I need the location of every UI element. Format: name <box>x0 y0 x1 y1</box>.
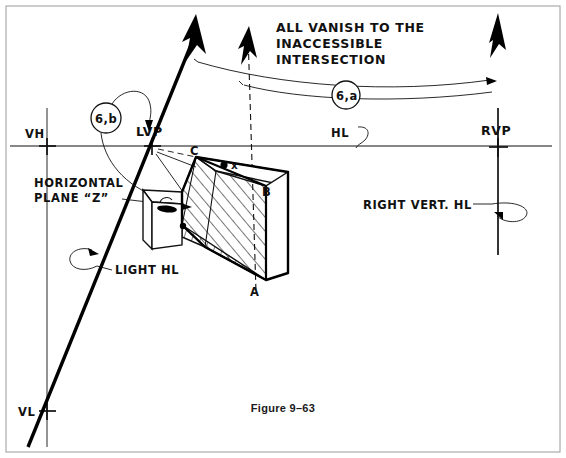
mark-x-label: x <box>231 159 238 171</box>
callout-6b-label: 6,b <box>95 112 117 126</box>
hl-label: HL <box>331 126 349 140</box>
vanish-note-line-1: ALL VANISH TO THE <box>276 20 425 35</box>
figure-caption: Figure 9–63 <box>251 402 315 414</box>
arrow-middle-dashed <box>238 26 257 65</box>
vanish-hook-mid <box>239 81 243 85</box>
block-object <box>143 157 288 280</box>
vl-label: VL <box>18 405 36 419</box>
rvp-label: RVP <box>481 123 511 138</box>
lvp-guide-to-notch <box>156 154 183 192</box>
vh-label: VH <box>25 127 45 141</box>
rvp-marker <box>489 138 508 157</box>
horizontal-plane-label-line1: HORIZONTAL <box>34 176 124 190</box>
callout-6a-label: 6,a <box>336 89 358 103</box>
vanish-hook-left <box>194 59 198 62</box>
vanish-arrow-right <box>486 77 497 85</box>
right-vert-hl-label: RIGHT VERT. HL <box>363 198 472 212</box>
vanish-note-line-3: INTERSECTION <box>276 52 386 67</box>
point-b-label: B <box>262 185 271 199</box>
block-vertex-lower-left <box>180 223 186 229</box>
light-hl-spiral-arrowhead <box>88 248 99 256</box>
figure-canvas: VH VL LVP RVP HL <box>0 0 566 458</box>
vanish-note-line-2: INACCESSIBLE <box>276 36 383 51</box>
point-a-label: A <box>250 285 260 299</box>
horizontal-plane-label-line2: PLANE “Z” <box>34 191 109 205</box>
hl-leader-curl <box>356 127 368 148</box>
point-c-label: C <box>190 144 199 158</box>
arrow-right-solid <box>489 13 506 58</box>
block-vertex-top <box>220 161 227 168</box>
light-hl-label: LIGHT HL <box>115 263 179 277</box>
perspective-diagram: VH VL LVP RVP HL <box>0 0 566 458</box>
